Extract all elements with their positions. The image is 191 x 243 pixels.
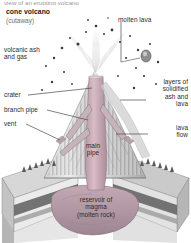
diagram-title: cone volcano: [6, 8, 50, 15]
label-molten-lava: molten lava: [118, 16, 151, 23]
label-crater: crater: [4, 91, 21, 98]
clipped-caption: view of an erupting volcano: [4, 0, 124, 5]
label-lava-flow: lava flow: [142, 124, 188, 139]
diagram-subtitle: (cutaway): [6, 17, 34, 24]
label-vent: vent: [4, 120, 16, 127]
volcano-diagram: view of an erupting volcano cone volcano…: [0, 0, 191, 243]
label-reservoir-of-magma: reservoir of magma (molten rock): [56, 196, 136, 218]
molten-lava-blob: [141, 50, 151, 62]
label-volcanic-ash-and-gas: volcanic ash and gas: [4, 46, 52, 61]
label-main-pipe: main pipe: [78, 142, 108, 157]
label-branch-pipe: branch pipe: [4, 106, 38, 113]
label-layers-of-solidified-ash-and-lava: layers of solidified ash and lava: [140, 78, 188, 108]
